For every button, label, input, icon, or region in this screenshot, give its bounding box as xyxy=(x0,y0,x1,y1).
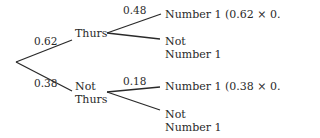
node-thurs: Thurs xyxy=(75,27,107,40)
prob-thurs-number1: 0.48 xyxy=(123,4,146,17)
prob-not-thurs-number1: 0.18 xyxy=(123,75,146,88)
outcome-not-thurs-not-number1-line2: Number 1 xyxy=(165,121,221,134)
outcome-thurs-not-number1-line2: Number 1 xyxy=(165,48,221,61)
branch-not-thurs-to-not-number1 xyxy=(107,92,160,110)
prob-not-thurs: 0.38 xyxy=(34,77,57,90)
outcome-thurs-number1: Number 1 (0.62 × 0.48) xyxy=(165,8,280,21)
outcome-not-thurs-not-number1-line1: Not xyxy=(165,108,186,121)
node-not-thurs-line2: Thurs xyxy=(75,93,107,106)
outcome-thurs-not-number1-line1: Not xyxy=(165,35,186,48)
branch-thurs-to-not-number1 xyxy=(107,33,160,39)
node-not-thurs-line1: Not xyxy=(75,80,96,93)
outcome-not-thurs-number1: Number 1 (0.38 × 0.18) xyxy=(165,80,280,93)
prob-thurs: 0.62 xyxy=(34,35,57,48)
